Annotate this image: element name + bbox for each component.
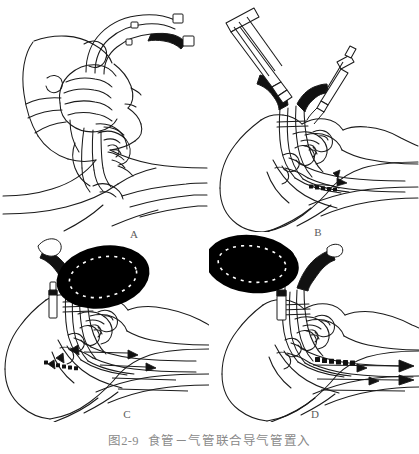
panel-c-esophageal-ventilation (0, 232, 209, 422)
figure-caption-number: 图2-9 (108, 434, 138, 448)
panel-d-drawing (209, 232, 419, 422)
figure-caption: 图2-9食管－气管联合导气管置入 (0, 430, 419, 449)
panel-c-drawing (0, 232, 209, 422)
panel-label-c: C (117, 408, 137, 420)
panel-b-cuff-inflation (209, 0, 419, 232)
figure-caption-title: 食管－气管联合导气管置入 (148, 434, 311, 448)
panel-a-drawing (0, 0, 209, 232)
panel-label-a: A (124, 228, 144, 240)
panel-label-d: D (305, 408, 325, 420)
figure-illustration: A B C D 图2-9食管－气管联合导气管置入 (0, 0, 419, 454)
panel-d-tracheal-ventilation (209, 232, 419, 422)
panel-b-drawing (209, 0, 419, 232)
panel-label-b: B (308, 226, 328, 238)
panel-a-insertion (0, 0, 209, 232)
